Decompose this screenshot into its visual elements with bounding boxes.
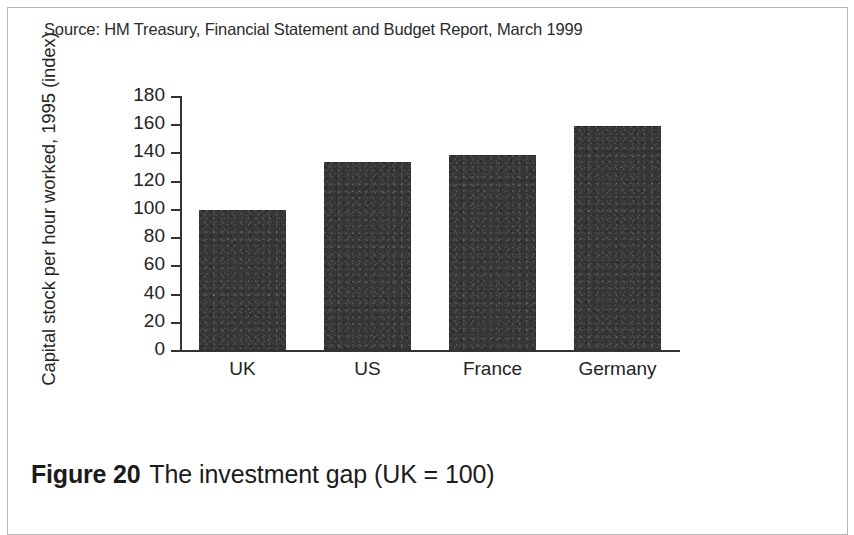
x-axis-label: France xyxy=(430,358,555,380)
y-axis-tick: 60 xyxy=(171,265,180,267)
y-axis-tick: 80 xyxy=(171,237,180,239)
y-axis-tick-label: 180 xyxy=(119,85,165,105)
y-axis-tick: 0 xyxy=(171,350,180,352)
bar xyxy=(199,210,286,350)
y-axis-tick-label: 160 xyxy=(119,113,165,133)
y-axis-tick-label: 60 xyxy=(119,254,165,274)
y-axis-tick-label: 80 xyxy=(119,226,165,246)
x-axis-label: UK xyxy=(180,358,305,380)
bar-chart: Capital stock per hour worked, 1995 (ind… xyxy=(8,8,849,438)
figure-frame: Capital stock per hour worked, 1995 (ind… xyxy=(7,7,848,535)
y-axis-tick: 20 xyxy=(171,322,180,324)
y-axis-tick: 140 xyxy=(171,152,180,154)
y-axis-tick-label: 20 xyxy=(119,311,165,331)
x-axis-line xyxy=(180,350,680,352)
y-axis-tick: 100 xyxy=(171,209,180,211)
y-axis-tick-label: 0 xyxy=(119,339,165,359)
y-axis-tick-label: 140 xyxy=(119,141,165,161)
y-axis-title: Capital stock per hour worked, 1995 (ind… xyxy=(38,29,60,389)
figure-caption: Figure 20The investment gap (UK = 100) xyxy=(31,459,495,489)
y-axis-tick-label: 100 xyxy=(119,198,165,218)
bar xyxy=(324,162,411,350)
y-axis-tick: 180 xyxy=(171,96,180,98)
bar xyxy=(574,126,661,350)
plot-area: 020406080100120140160180 UKUSFranceGerma… xyxy=(180,96,680,352)
y-axis-tick: 120 xyxy=(171,181,180,183)
y-axis-tick: 160 xyxy=(171,124,180,126)
x-axis-label: Germany xyxy=(555,358,680,380)
y-axis-line xyxy=(180,96,182,352)
y-axis-tick: 40 xyxy=(171,294,180,296)
bar xyxy=(449,155,536,350)
figure-caption-text: The investment gap (UK = 100) xyxy=(149,460,494,488)
figure-caption-number: Figure 20 xyxy=(31,460,140,488)
x-axis-label: US xyxy=(305,358,430,380)
source-annotation: Source: HM Treasury, Financial Statement… xyxy=(44,20,583,39)
y-axis-tick-label: 120 xyxy=(119,170,165,190)
y-axis-tick-label: 40 xyxy=(119,283,165,303)
